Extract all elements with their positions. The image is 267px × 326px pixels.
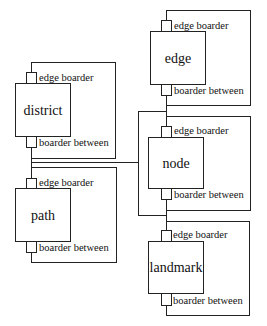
landmark-label: landmark <box>150 260 203 275</box>
node-label: node <box>162 156 189 171</box>
landmark-top-port <box>162 231 172 242</box>
landmark-top-port-label: edge boarder <box>173 229 228 240</box>
edge-label: edge <box>165 51 191 66</box>
district-top-port <box>27 73 37 84</box>
node-group: node edge boarder boarder between <box>149 117 251 211</box>
path-bottom-port-label: boarder between <box>39 242 109 253</box>
node-top-port-label: edge boarder <box>174 125 229 136</box>
district-bottom-port-label: boarder between <box>39 137 109 148</box>
district-bottom-port <box>27 137 37 148</box>
edge-top-port-label: edge boarder <box>174 20 229 31</box>
edge-bottom-port <box>162 85 172 96</box>
landmark-group: landmark edge boarder boarder between <box>149 222 250 316</box>
district-label: district <box>24 103 63 118</box>
path-top-port-label: edge boarder <box>39 177 94 188</box>
node-bottom-port-label: boarder between <box>174 189 244 200</box>
path-label: path <box>31 208 55 223</box>
path-group: path edge boarder boarder between <box>16 168 117 263</box>
edge-group: edge edge boarder boarder between <box>151 11 251 106</box>
district-top-port-label: edge boarder <box>39 72 94 83</box>
node-top-port <box>162 127 172 138</box>
node-bottom-port <box>162 189 172 200</box>
path-bottom-port <box>27 242 37 253</box>
edge-top-port <box>162 21 172 32</box>
path-top-port <box>27 179 37 189</box>
edge-bottom-port-label: boarder between <box>174 85 244 96</box>
district-group: district edge boarder boarder between <box>16 63 116 159</box>
landmark-bottom-port <box>162 294 172 306</box>
diagram-canvas: district edge boarder boarder between pa… <box>0 0 267 326</box>
landmark-bottom-port-label: boarder between <box>173 295 243 306</box>
